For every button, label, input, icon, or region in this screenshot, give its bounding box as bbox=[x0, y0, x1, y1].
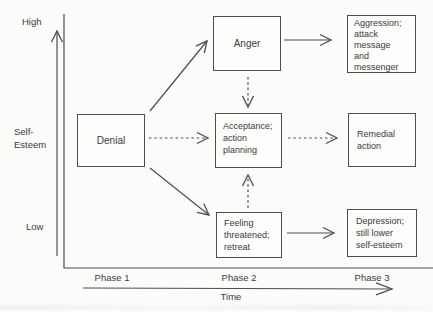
x-tick-phase-3: Phase 3 bbox=[355, 272, 390, 283]
y-axis-title: Self- Esteem bbox=[14, 126, 46, 151]
arrow-denial-to-feeling-threatened bbox=[150, 168, 209, 215]
x-axis-title: Time bbox=[221, 291, 242, 302]
self-esteem-phase-diagram: High Self- Esteem Low Phase 1 Phase 2 Ph… bbox=[0, 0, 433, 312]
scan-artifact bbox=[0, 305, 433, 310]
node-denial: Denial bbox=[77, 114, 145, 167]
x-tick-phase-2: Phase 2 bbox=[222, 272, 257, 283]
arrow-denial-to-anger bbox=[150, 41, 207, 111]
node-acceptance: Acceptance; action planning bbox=[215, 113, 282, 168]
node-aggression: Aggression; attack message and messenger bbox=[347, 15, 416, 73]
node-anger: Anger bbox=[213, 16, 281, 71]
node-depression: Depression; still lower self-esteem bbox=[347, 209, 417, 257]
node-feeling-threatened: Feeling threatened; retreat bbox=[216, 212, 282, 258]
y-axis-high-label: High bbox=[22, 16, 42, 29]
node-remedial-action: Remedial action bbox=[348, 113, 416, 167]
time-axis-arrow bbox=[83, 288, 392, 289]
y-axis-low-label: Low bbox=[26, 221, 43, 234]
x-tick-phase-1: Phase 1 bbox=[95, 272, 130, 283]
